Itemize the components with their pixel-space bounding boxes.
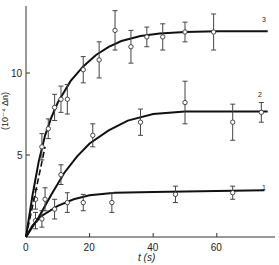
x-tick-label: 0 bbox=[23, 242, 29, 253]
data-point bbox=[40, 145, 44, 149]
data-point bbox=[173, 192, 177, 196]
data-point bbox=[81, 68, 85, 72]
data-point bbox=[52, 207, 56, 211]
fit-curve bbox=[26, 190, 265, 237]
data-point bbox=[183, 30, 187, 34]
data-point bbox=[59, 97, 63, 101]
data-point bbox=[46, 127, 50, 131]
data-point bbox=[259, 110, 263, 114]
data-point bbox=[52, 105, 56, 109]
data-point bbox=[43, 197, 47, 201]
curve-label: 3 bbox=[262, 16, 266, 23]
curve-label: 2 bbox=[258, 91, 262, 98]
chart-container: 0204060510 (10⁻⁴ Δn) t (s) 123 bbox=[0, 0, 279, 265]
x-axis-label: t (s) bbox=[138, 252, 155, 263]
data-point bbox=[113, 28, 117, 32]
data-point bbox=[138, 120, 142, 124]
y-axis-label: (10⁻⁴ Δn) bbox=[0, 92, 10, 130]
data-point bbox=[231, 191, 235, 195]
data-point bbox=[183, 100, 187, 104]
data-point bbox=[161, 35, 165, 39]
axes bbox=[26, 6, 275, 237]
y-tick-label: 5 bbox=[17, 150, 23, 161]
birefringence-plot: 0204060510 (10⁻⁴ Δn) t (s) 123 bbox=[0, 0, 279, 265]
data-point bbox=[81, 200, 85, 204]
ticks: 0204060510 bbox=[11, 68, 222, 253]
data-point bbox=[59, 172, 63, 176]
series-1: 1 bbox=[26, 184, 266, 237]
curve-label: 1 bbox=[262, 184, 266, 191]
series-2: 2 bbox=[26, 81, 268, 237]
data-point bbox=[65, 200, 69, 204]
data-point bbox=[145, 35, 149, 39]
data-point bbox=[97, 58, 101, 62]
data-point bbox=[91, 133, 95, 137]
x-tick-label: 60 bbox=[211, 242, 223, 253]
data-point bbox=[211, 30, 215, 34]
y-tick-label: 10 bbox=[11, 68, 23, 79]
data-point bbox=[110, 200, 114, 204]
x-tick-label: 20 bbox=[84, 242, 96, 253]
data-point bbox=[129, 45, 133, 49]
data-point bbox=[231, 120, 235, 124]
series-group: 123 bbox=[26, 11, 268, 237]
data-point bbox=[65, 97, 69, 101]
fit-curve bbox=[26, 31, 268, 237]
data-point bbox=[40, 217, 44, 221]
